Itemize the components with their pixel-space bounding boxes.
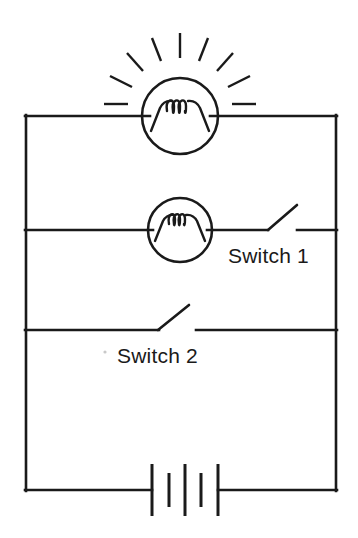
battery: [152, 464, 218, 516]
circuit-diagram-canvas: Switch 1 Switch 2: [0, 0, 358, 538]
switch-2-label: Switch 2: [117, 344, 198, 367]
lamp-lit-filament-support-left: [151, 101, 172, 131]
light-ray-right-2: [217, 53, 233, 71]
lamp-lit-filament-support-right: [188, 101, 209, 131]
lamp-lit-filament-coil: [167, 100, 186, 112]
lamp-unlit-filament-support-right: [186, 215, 205, 241]
light-ray-left-3: [110, 76, 132, 87]
lamp-unlit-filament-coil: [169, 214, 185, 225]
switch-2-lever[interactable]: [158, 305, 189, 330]
switch-1-label: Switch 1: [228, 244, 309, 267]
light-ray-left-1: [152, 38, 161, 61]
lamp-lit: [104, 33, 256, 154]
lamp-unlit-filament-support-left: [155, 215, 174, 241]
switch-1-lever[interactable]: [268, 205, 297, 230]
lamp-unlit-envelope: [148, 198, 212, 262]
light-ray-right-1: [199, 38, 208, 61]
circuit-schematic: Switch 1 Switch 2: [0, 0, 358, 538]
switch-1[interactable]: [268, 205, 297, 230]
lamp-lit-envelope: [142, 78, 218, 154]
scan-speck: [103, 350, 106, 353]
lamp-unlit: [148, 198, 212, 262]
light-rays-icon: [104, 33, 256, 104]
light-ray-right-3: [228, 76, 250, 87]
light-ray-left-2: [127, 53, 143, 71]
switch-2[interactable]: [158, 305, 189, 330]
circuit-frame: [25, 115, 337, 491]
